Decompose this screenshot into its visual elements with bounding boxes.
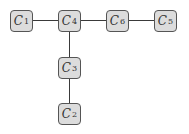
node-c4-sub: 4 [72,17,77,26]
node-c6: C6 [106,10,129,32]
node-c6-sub: 6 [120,17,125,26]
edge-c4-c6 [81,20,106,21]
node-c3-letter: C [62,61,71,75]
node-c5-letter: C [158,14,167,28]
node-c3: C3 [58,57,81,79]
node-c1: C1 [10,10,33,32]
node-c1-sub: 1 [24,17,29,26]
node-c2: C2 [58,103,81,125]
node-c5: C5 [154,10,177,32]
node-c2-letter: C [62,107,71,121]
node-c6-letter: C [110,14,119,28]
node-c4-letter: C [62,14,71,28]
edge-c4-c3 [69,32,70,57]
node-c2-sub: 2 [72,110,77,119]
edge-c3-c2 [69,79,70,103]
node-c3-sub: 3 [72,64,77,73]
edge-c1-c4 [33,20,58,21]
node-c1-letter: C [14,14,23,28]
edge-c6-c5 [129,20,154,21]
node-c4: C4 [58,10,81,32]
node-c5-sub: 5 [168,17,173,26]
